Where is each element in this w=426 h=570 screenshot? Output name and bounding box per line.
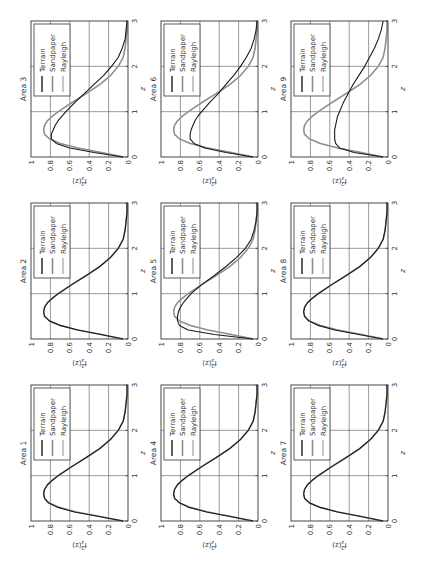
panel-title: Area 8 (279, 259, 288, 284)
legend-label-terrain: Terrain (169, 230, 177, 255)
chart-grid: 012300.20.40.60.81zf2z(z)Area 1TerrainSa… (0, 0, 426, 570)
y-tick-label: 0 (255, 524, 263, 528)
x-tick-label: 1 (391, 291, 399, 295)
y-tick-label: 1 (158, 160, 166, 164)
y-tick-label: 1 (28, 524, 36, 528)
panel-7: 012300.20.40.60.81zf2z(z)Area 7TerrainSa… (279, 383, 407, 551)
x-tick-label: 0 (391, 337, 399, 341)
x-tick-label: 2 (131, 64, 139, 68)
legend: TerrainSandpaperRayleigh (34, 388, 70, 460)
legend-label-terrain: Terrain (169, 412, 177, 437)
y-tick-label: 0 (385, 160, 393, 164)
x-tick-label: 1 (391, 473, 399, 477)
y-tick-label: 1 (28, 160, 36, 164)
y-tick-label: 0.6 (196, 523, 204, 535)
legend-label-sandpaper: Sandpaper (179, 398, 187, 436)
x-axis-label: z (269, 87, 277, 92)
x-tick-label: 2 (261, 64, 269, 68)
x-tick-label: 0 (261, 519, 269, 523)
series-line-terrain (335, 21, 384, 157)
x-tick-label: 3 (131, 383, 139, 387)
y-axis-label: f2z(z) (332, 358, 347, 369)
y-tick-label: 1 (288, 524, 296, 528)
legend-label-rayleigh: Rayleigh (190, 406, 198, 436)
legend-label-rayleigh: Rayleigh (320, 224, 328, 254)
y-axis-label-arg: (z) (202, 541, 211, 549)
y-tick-label: 0 (125, 342, 133, 346)
y-axis-label-arg: (z) (332, 177, 341, 185)
y-tick-label: 1 (288, 160, 296, 164)
x-tick-label: 2 (391, 246, 399, 250)
y-axis-label-arg: (z) (202, 359, 211, 367)
legend: TerrainSandpaperRayleigh (164, 24, 200, 96)
y-tick-label: 0.4 (216, 341, 224, 353)
y-axis-label-arg: (z) (332, 359, 341, 367)
y-tick-label: 1 (28, 342, 36, 346)
y-tick-label: 0 (125, 524, 133, 528)
legend-label-sandpaper: Sandpaper (49, 34, 57, 72)
y-tick-label: 0 (385, 524, 393, 528)
x-tick-label: 1 (261, 473, 269, 477)
legend-label-terrain: Terrain (169, 48, 177, 73)
y-tick-label: 0.6 (66, 159, 74, 171)
y-tick-label: 0 (255, 160, 263, 164)
y-axis-label-arg: (z) (72, 177, 81, 185)
y-axis-label: f2z(z) (72, 540, 87, 551)
legend-label-terrain: Terrain (39, 412, 47, 437)
y-axis-label: f2z(z) (202, 358, 217, 369)
y-tick-label: 0.4 (346, 341, 354, 353)
legend: TerrainSandpaperRayleigh (294, 388, 330, 460)
y-axis-label: f2z(z) (72, 358, 87, 369)
y-tick-label: 0.4 (216, 159, 224, 171)
y-tick-label: 0.2 (105, 524, 113, 535)
x-axis-label: z (399, 451, 407, 456)
legend: TerrainSandpaperRayleigh (294, 24, 330, 96)
x-tick-label: 1 (261, 291, 269, 295)
legend-label-terrain: Terrain (39, 48, 47, 73)
panel-1: 012300.20.40.60.81zf2z(z)Area 1TerrainSa… (19, 383, 147, 551)
legend-label-sandpaper: Sandpaper (309, 34, 317, 72)
y-axis-label: f2z(z) (202, 176, 217, 187)
legend: TerrainSandpaperRayleigh (164, 206, 200, 278)
y-tick-label: 0.6 (66, 523, 74, 535)
y-axis-label: f2z(z) (332, 176, 347, 187)
x-tick-label: 1 (131, 291, 139, 295)
y-tick-label: 0.8 (307, 524, 315, 535)
panel-8: 012300.20.40.60.81zf2z(z)Area 8TerrainSa… (279, 201, 407, 369)
x-tick-label: 2 (391, 428, 399, 432)
legend: TerrainSandpaperRayleigh (34, 24, 70, 96)
y-tick-label: 0.2 (235, 342, 243, 353)
y-tick-label: 0.2 (105, 160, 113, 171)
y-tick-label: 0.2 (235, 160, 243, 171)
legend-label-rayleigh: Rayleigh (60, 224, 68, 254)
x-tick-label: 2 (261, 246, 269, 250)
figure: 012300.20.40.60.81zf2z(z)Area 1TerrainSa… (0, 0, 426, 570)
y-tick-label: 0.6 (326, 341, 334, 353)
y-tick-label: 0.6 (326, 523, 334, 535)
x-tick-label: 3 (261, 19, 269, 23)
panel-title: Area 6 (149, 77, 158, 102)
x-tick-label: 3 (391, 19, 399, 23)
x-tick-label: 3 (391, 201, 399, 205)
legend-label-terrain: Terrain (299, 412, 307, 437)
y-axis-label-arg: (z) (202, 177, 211, 185)
panel-5: 012300.20.40.60.81zf2z(z)Area 5TerrainSa… (149, 201, 277, 369)
y-tick-label: 0.4 (216, 523, 224, 535)
x-axis-label: z (139, 87, 147, 92)
y-tick-label: 0.4 (346, 159, 354, 171)
y-tick-label: 0.2 (365, 524, 373, 535)
y-tick-label: 0.8 (307, 342, 315, 353)
x-tick-label: 0 (131, 337, 139, 341)
x-tick-label: 0 (261, 337, 269, 341)
x-tick-label: 0 (391, 519, 399, 523)
y-axis-label-arg: (z) (332, 541, 341, 549)
legend-label-terrain: Terrain (299, 48, 307, 73)
y-tick-label: 0.2 (365, 160, 373, 171)
panel-9: 012300.20.40.60.81zf2z(z)Area 9TerrainSa… (279, 19, 407, 187)
legend-label-sandpaper: Sandpaper (309, 216, 317, 254)
panel-2: 012300.20.40.60.81zf2z(z)Area 2TerrainSa… (19, 201, 147, 369)
y-tick-label: 0.4 (86, 523, 94, 535)
legend: TerrainSandpaperRayleigh (294, 206, 330, 278)
panel-title: Area 3 (19, 77, 28, 102)
y-axis-label: f2z(z) (72, 176, 87, 187)
